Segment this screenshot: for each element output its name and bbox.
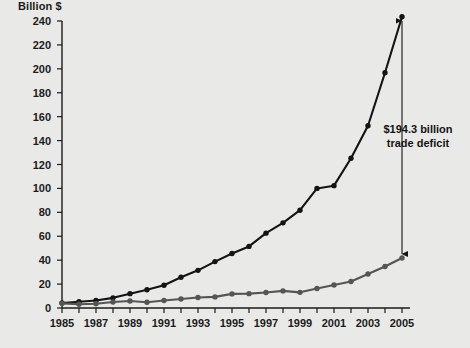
- y-tick-label-40: 40: [23, 254, 51, 266]
- x-tick-label-2005: 2005: [382, 317, 422, 329]
- y-tick-label-20: 20: [23, 278, 51, 290]
- y-tick-label-100: 100: [23, 182, 51, 194]
- plot-area: [0, 0, 470, 348]
- annotation-line-2: trade deficit: [383, 136, 452, 150]
- y-tick-label-160: 160: [23, 111, 51, 123]
- y-tick-label-240: 240: [23, 15, 51, 27]
- deficit-annotation: $194.3 billion trade deficit: [383, 122, 452, 150]
- trade-deficit-chart: Billion $ 020406080100120140160180200220…: [0, 0, 470, 348]
- y-tick-label-80: 80: [23, 206, 51, 218]
- y-tick-label-60: 60: [23, 230, 51, 242]
- annotation-line-1: $194.3 billion: [383, 122, 452, 136]
- y-tick-label-140: 140: [23, 135, 51, 147]
- y-tick-label-180: 180: [23, 87, 51, 99]
- y-tick-label-0: 0: [23, 302, 51, 314]
- y-tick-label-200: 200: [23, 63, 51, 75]
- y-tick-label-220: 220: [23, 39, 51, 51]
- data-series: [59, 14, 404, 307]
- y-tick-label-120: 120: [23, 159, 51, 171]
- axes: [57, 21, 410, 313]
